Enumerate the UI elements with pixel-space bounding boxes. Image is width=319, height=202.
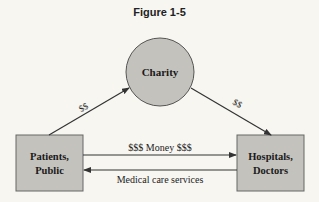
care-label: Medical care services bbox=[117, 174, 204, 185]
flow-diagram: Charity Patients, Public Hospitals, Doct… bbox=[0, 0, 319, 202]
hospitals-node: Hospitals, Doctors bbox=[237, 135, 304, 191]
patients-label-line2: Public bbox=[35, 165, 64, 176]
arrow-patients-to-charity bbox=[49, 88, 129, 135]
charity-to-hospitals-label: $$ bbox=[231, 97, 244, 110]
hospitals-label-line2: Doctors bbox=[253, 165, 288, 176]
patients-label-line1: Patients, bbox=[30, 151, 69, 162]
arrow-charity-to-hospitals bbox=[191, 88, 271, 135]
charity-node: Charity bbox=[126, 38, 194, 106]
patients-node: Patients, Public bbox=[16, 135, 83, 191]
money-label: $$$ Money $$$ bbox=[128, 142, 191, 153]
hospitals-label-line1: Hospitals, bbox=[248, 151, 293, 162]
charity-label: Charity bbox=[142, 66, 179, 78]
